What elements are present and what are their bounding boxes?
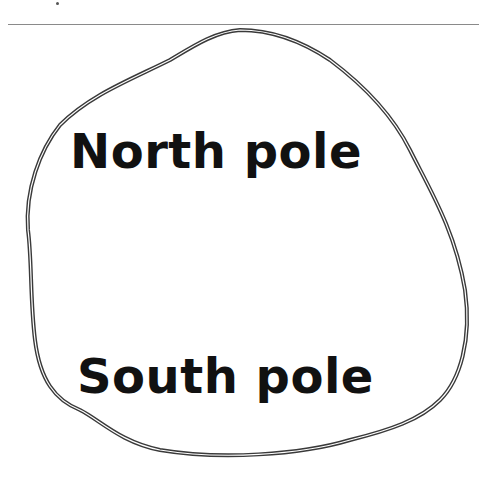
north-pole-label: North pole bbox=[70, 127, 362, 175]
south-pole-label: South pole bbox=[77, 352, 374, 400]
magnet-outline bbox=[0, 0, 479, 484]
